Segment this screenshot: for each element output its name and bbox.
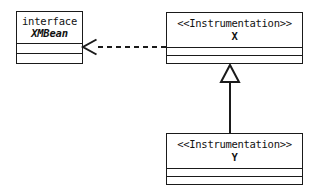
stereotype-label-x: <<Instrumentation>> [177, 17, 291, 29]
class-name-compartment-y: <<Instrumentation>> Y [167, 134, 302, 168]
generalization-hollow-triangle [221, 65, 239, 82]
attributes-compartment-y [167, 168, 302, 176]
operations-compartment-x [167, 55, 302, 63]
operations-compartment-xmbean [17, 53, 82, 63]
class-name-label-xmbean: XMBean [31, 27, 68, 39]
uml-class-diagram: interface XMBean <<Instrumentation>> X <… [0, 0, 319, 192]
realization-connector-x-to-xmbean[interactable] [83, 40, 166, 55]
attributes-compartment-xmbean [17, 43, 82, 53]
class-name-label-x: X [231, 30, 237, 42]
generalization-connector-y-to-x[interactable] [221, 65, 239, 133]
class-name-compartment-xmbean: interface XMBean [17, 12, 82, 43]
class-box-y[interactable]: <<Instrumentation>> Y [166, 133, 303, 185]
attributes-compartment-x [167, 47, 302, 55]
interface-keyword-label: interface [22, 15, 77, 27]
operations-compartment-y [167, 176, 302, 184]
class-name-compartment-x: <<Instrumentation>> X [167, 13, 302, 47]
class-box-x[interactable]: <<Instrumentation>> X [166, 12, 303, 64]
stereotype-label-y: <<Instrumentation>> [177, 138, 291, 150]
realization-open-arrowhead [83, 40, 97, 55]
class-name-label-y: Y [231, 151, 237, 163]
class-box-xmbean[interactable]: interface XMBean [16, 11, 83, 64]
